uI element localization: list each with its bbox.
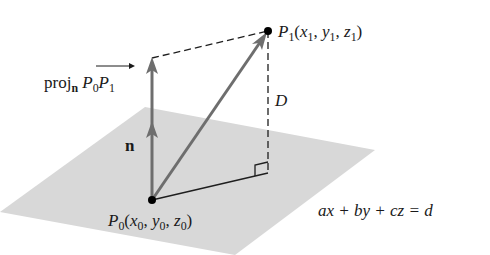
overarrow-head-icon — [129, 63, 135, 69]
label-normal: n — [125, 137, 134, 154]
point-p1 — [264, 27, 272, 35]
point-p0 — [148, 196, 156, 204]
label-projection: projn P0P1 — [44, 74, 115, 94]
label-p1: P1(x1, y1, z1) — [278, 23, 362, 43]
plane — [0, 107, 375, 255]
label-distance: D — [275, 92, 287, 109]
label-p0: P0(x0, y0, z0) — [108, 212, 192, 232]
label-plane-equation: ax + by + cz = d — [318, 202, 433, 219]
